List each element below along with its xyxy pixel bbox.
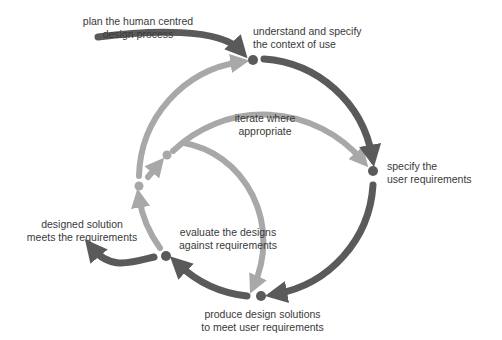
label-plan: plan the human centred design process (68, 15, 208, 40)
label-produce-line1: produce design solutions (190, 308, 335, 321)
label-produce: produce design solutions to meet user re… (190, 308, 335, 333)
label-requirements-line2: user requirements (387, 173, 472, 186)
label-context: understand and specify the context of us… (253, 25, 362, 50)
label-evaluate-line2: against requirements (168, 239, 288, 252)
node-evaluate (161, 251, 171, 261)
label-context-line1: understand and specify (253, 25, 362, 38)
iterate-arc-inner (184, 143, 263, 285)
label-iterate-line1: iterate where (215, 112, 315, 125)
label-plan-line2: design process (68, 28, 208, 41)
solution-arrow (92, 248, 154, 263)
requirements-to-produce-arc (276, 185, 373, 294)
evaluate-to-iterate-arc (139, 198, 160, 248)
node-iterate-outer (135, 182, 144, 191)
node-produce (256, 291, 266, 301)
label-iterate: iterate where appropriate (215, 112, 315, 137)
label-iterate-line2: appropriate (215, 125, 315, 138)
node-context (248, 55, 258, 65)
iterate-arrow-short (148, 165, 158, 177)
label-plan-line1: plan the human centred (68, 15, 208, 28)
label-solution-line1: designed solution (22, 218, 142, 231)
label-evaluate: evaluate the designs against requirement… (168, 226, 288, 251)
label-produce-line2: to meet user requirements (190, 321, 335, 334)
label-solution-line2: meets the requirements (22, 231, 142, 244)
label-context-line2: the context of use (253, 38, 362, 51)
produce-to-evaluate-arc (178, 264, 247, 296)
node-iterate-inner (163, 151, 172, 160)
label-requirements-line1: specify the (387, 160, 472, 173)
context-to-requirements-arc (264, 59, 372, 156)
label-requirements: specify the user requirements (387, 160, 472, 185)
label-solution: designed solution meets the requirements (22, 218, 142, 243)
label-evaluate-line1: evaluate the designs (168, 226, 288, 239)
node-requirements (368, 166, 378, 176)
